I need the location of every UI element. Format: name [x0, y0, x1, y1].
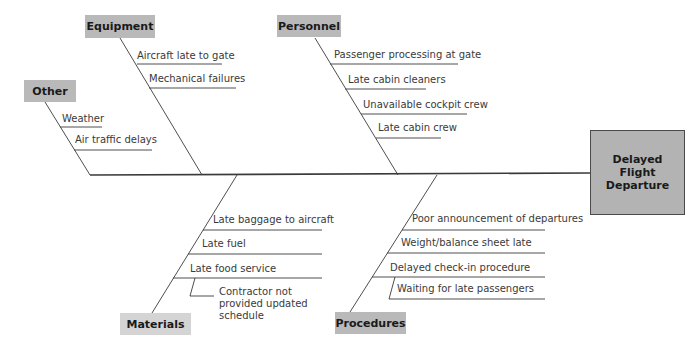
- cause-item: Late cabin crew: [378, 122, 457, 134]
- category-other: Other: [24, 80, 76, 102]
- cause-item: Unavailable cockpit crew: [363, 99, 488, 111]
- cause-item: Late fuel: [202, 238, 246, 250]
- spine: [90, 173, 590, 175]
- cause-item: Air traffic delays: [75, 134, 157, 146]
- cause-item: Passenger processing at gate: [334, 49, 481, 61]
- category-label: Equipment: [87, 20, 154, 33]
- cause-item: Delayed check-in procedure: [390, 262, 530, 274]
- category-label: Materials: [126, 318, 184, 331]
- effect-label: Delayed Flight Departure: [603, 153, 673, 192]
- cause-item: Weather: [62, 113, 104, 125]
- cause-item: Mechanical failures: [149, 73, 245, 85]
- category-label: Procedures: [335, 317, 405, 330]
- category-label: Personnel: [278, 20, 340, 33]
- sub-cause-item: Contractor not provided updated schedule: [219, 286, 337, 322]
- cause-item: Poor announcement of departures: [412, 213, 583, 225]
- cause-item: Late cabin cleaners: [348, 74, 446, 86]
- cause-item: Aircraft late to gate: [137, 50, 235, 62]
- cause-item: Late baggage to aircraft: [213, 214, 334, 226]
- category-materials: Materials: [120, 313, 191, 335]
- category-equipment: Equipment: [85, 15, 155, 38]
- cause-item: Weight/balance sheet late: [401, 237, 532, 249]
- category-label: Other: [32, 85, 67, 98]
- category-procedures: Procedures: [335, 312, 406, 334]
- cause-item: Late food service: [190, 263, 276, 275]
- effect-box: Delayed Flight Departure: [590, 130, 685, 215]
- category-personnel: Personnel: [277, 15, 341, 37]
- sub-cause-item: Waiting for late passengers: [397, 283, 534, 295]
